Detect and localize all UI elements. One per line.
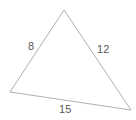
- triangle-shape: [0, 0, 136, 120]
- triangle-diagram: 8 12 15: [0, 0, 136, 120]
- side-length-label-left: 8: [28, 41, 34, 52]
- side-length-label-bottom: 15: [59, 104, 72, 115]
- triangle-outline: [10, 10, 131, 110]
- side-length-label-right: 12: [97, 44, 110, 55]
